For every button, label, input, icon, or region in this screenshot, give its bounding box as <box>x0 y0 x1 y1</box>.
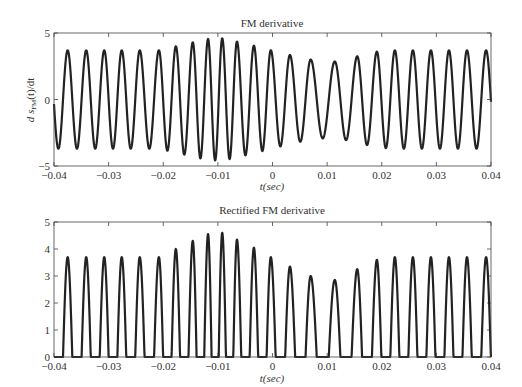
y-tick-label: 0 <box>45 94 51 106</box>
x-tick-label: 0.03 <box>427 360 447 372</box>
top-chart-ylabel: d sFM(t)/dt <box>24 78 38 123</box>
x-tick-label: 0.03 <box>427 169 447 181</box>
y-tick-label: 0 <box>45 351 51 363</box>
x-tick-label: 0.02 <box>372 169 391 181</box>
bottom-chart-line <box>54 233 491 357</box>
y-tick-label: 1 <box>45 324 51 336</box>
y-tick-label: 3 <box>45 270 51 282</box>
top-chart-title: FM derivative <box>241 17 304 29</box>
x-tick-label: −0.02 <box>151 169 176 181</box>
y-tick-label: 4 <box>45 243 51 255</box>
x-tick-label: 0 <box>270 360 276 372</box>
figure: FM derivative −0.04−0.03−0.02−0.0100.010… <box>0 0 522 387</box>
y-tick-label: 5 <box>45 216 51 228</box>
x-tick-label: −0.02 <box>151 360 176 372</box>
top-chart-line <box>54 38 491 160</box>
y-tick-label: 5 <box>45 27 51 39</box>
bottom-chart: Rectified FM derivative −0.04−0.03−0.02−… <box>41 204 501 385</box>
bottom-chart-ticks: −0.04−0.03−0.02−0.0100.010.020.030.04012… <box>41 216 501 372</box>
y-tick-label: 2 <box>45 297 51 309</box>
y-tick-label: −5 <box>38 160 50 172</box>
x-tick-label: 0.01 <box>318 169 337 181</box>
x-tick-label: −0.01 <box>205 169 230 181</box>
x-tick-label: 0.04 <box>481 169 501 181</box>
x-tick-label: 0.01 <box>318 360 337 372</box>
bottom-chart-xlabel: t(sec) <box>260 372 285 385</box>
x-tick-label: 0.04 <box>481 360 501 372</box>
top-chart-xlabel: t(sec) <box>260 180 285 193</box>
x-tick-label: −0.01 <box>205 360 230 372</box>
x-tick-label: −0.03 <box>96 169 122 181</box>
bottom-chart-title: Rectified FM derivative <box>219 204 325 216</box>
top-chart: FM derivative −0.04−0.03−0.02−0.0100.010… <box>24 17 501 193</box>
x-tick-label: −0.03 <box>96 360 122 372</box>
x-tick-label: 0.02 <box>372 360 391 372</box>
